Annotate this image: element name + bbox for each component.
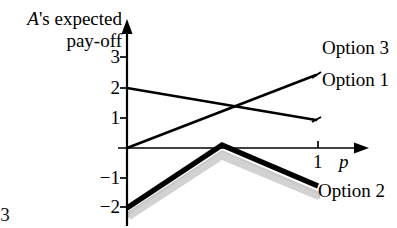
x-axis-arrowhead <box>354 143 369 154</box>
plot-canvas <box>0 0 397 228</box>
series-line-option-3 <box>127 75 316 148</box>
expected-payoff-figure: A's expected pay-off 3 2 1 −1 −2 1 p Opt… <box>0 0 397 228</box>
y-axis-arrowhead <box>122 19 133 34</box>
series-line-option-1 <box>127 88 316 120</box>
